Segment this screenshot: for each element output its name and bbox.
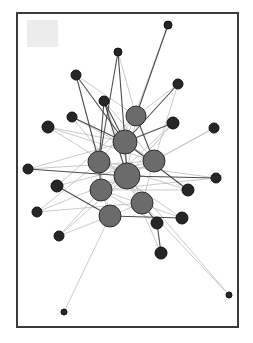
network-graph-canvas bbox=[0, 0, 253, 343]
leaf-node bbox=[151, 217, 163, 229]
hub-node bbox=[114, 163, 140, 189]
leaf-node bbox=[51, 180, 63, 192]
leaf-node bbox=[211, 173, 221, 183]
hub-node bbox=[131, 192, 153, 214]
leaf-node bbox=[173, 79, 183, 89]
hub-node bbox=[126, 106, 146, 126]
hub-node bbox=[143, 150, 165, 172]
leaf-node bbox=[209, 123, 219, 133]
leaf-node bbox=[42, 121, 54, 133]
leaf-node bbox=[155, 247, 167, 259]
leaf-node bbox=[99, 96, 109, 106]
leaf-node bbox=[32, 207, 42, 217]
placeholder-square bbox=[27, 20, 58, 47]
network-diagram bbox=[0, 0, 253, 343]
hub-node bbox=[88, 151, 110, 173]
leaf-node bbox=[167, 117, 179, 129]
leaf-node bbox=[23, 164, 33, 174]
hub-node bbox=[113, 130, 137, 154]
leaf-node bbox=[54, 231, 64, 241]
edge bbox=[28, 169, 127, 176]
leaf-node bbox=[226, 292, 232, 298]
edge bbox=[136, 25, 168, 116]
leaf-node bbox=[61, 309, 67, 315]
leaf-node bbox=[176, 212, 188, 224]
hub-node bbox=[90, 179, 112, 201]
edge bbox=[64, 216, 110, 312]
leaf-node bbox=[182, 184, 194, 196]
leaf-node bbox=[114, 48, 122, 56]
leaf-node bbox=[71, 70, 81, 80]
hub-node bbox=[99, 205, 121, 227]
leaf-node bbox=[164, 21, 172, 29]
leaf-node bbox=[67, 112, 77, 122]
